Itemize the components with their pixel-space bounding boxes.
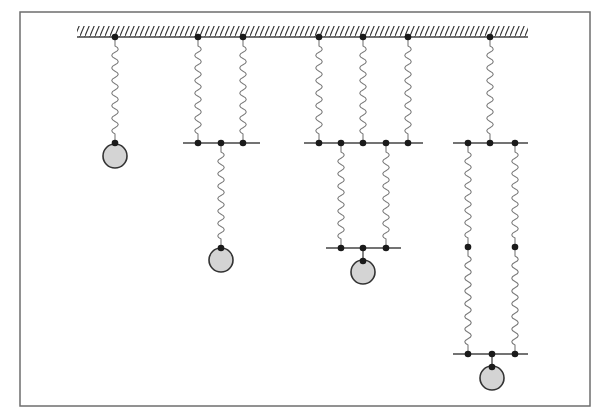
joint-node xyxy=(240,140,247,147)
joint-node xyxy=(360,34,367,41)
spring xyxy=(465,143,472,247)
spring xyxy=(405,37,412,143)
joint-node xyxy=(195,34,202,41)
joint-node xyxy=(487,34,494,41)
spring xyxy=(112,37,119,143)
joint-node xyxy=(489,351,496,358)
spring xyxy=(465,247,472,354)
spring xyxy=(383,143,390,248)
spring xyxy=(316,37,323,143)
joint-node xyxy=(360,140,367,147)
joint-node xyxy=(465,244,472,251)
spring xyxy=(360,37,367,143)
joint-node xyxy=(405,34,412,41)
joint-node xyxy=(360,245,367,252)
joint-node xyxy=(489,364,496,371)
mass-ball xyxy=(209,248,233,272)
joint-node xyxy=(465,140,472,147)
spring-systems xyxy=(103,34,528,390)
ceiling-support xyxy=(77,26,528,37)
joint-node xyxy=(195,140,202,147)
joint-node xyxy=(112,34,119,41)
joint-node xyxy=(218,245,225,252)
spring xyxy=(338,143,345,248)
mass-ball xyxy=(103,144,127,168)
diagram-svg xyxy=(0,0,606,414)
spring xyxy=(487,37,494,143)
joint-node xyxy=(338,140,345,147)
diagram-frame xyxy=(20,12,590,406)
joint-node xyxy=(240,34,247,41)
spring xyxy=(512,143,519,247)
ceiling-hatch xyxy=(77,26,528,37)
system-single-then-two-long-parallel xyxy=(453,34,528,390)
joint-node xyxy=(316,34,323,41)
joint-node xyxy=(383,140,390,147)
system-single-spring xyxy=(103,34,127,168)
joint-node xyxy=(512,351,519,358)
spring-mass-diagram xyxy=(0,0,606,414)
spring xyxy=(240,37,247,143)
joint-node xyxy=(383,245,390,252)
joint-node xyxy=(512,244,519,251)
joint-node xyxy=(338,245,345,252)
joint-node xyxy=(112,140,119,147)
joint-node xyxy=(512,140,519,147)
joint-node xyxy=(316,140,323,147)
spring xyxy=(218,143,225,248)
joint-node xyxy=(218,140,225,147)
system-three-parallel-then-two-parallel xyxy=(304,34,423,284)
joint-node xyxy=(405,140,412,147)
joint-node xyxy=(487,140,494,147)
system-parallel-then-series xyxy=(183,34,260,272)
joint-node xyxy=(360,258,367,265)
spring xyxy=(195,37,202,143)
spring xyxy=(512,247,519,354)
joint-node xyxy=(465,351,472,358)
